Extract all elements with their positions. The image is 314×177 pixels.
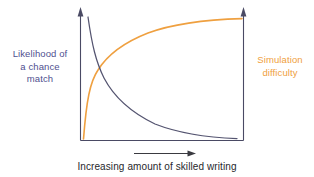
x-direction-arrow-head [188,151,197,157]
left-axis-arrowhead-icon [78,7,84,17]
left-series-label: Likelihood of a chance match [2,48,78,86]
x-direction-arrow-icon [134,151,196,157]
right-series-label-line-2: difficulty [248,67,312,80]
left-series-label-line-1: Likelihood of [2,48,78,61]
left-axis [78,7,84,141]
right-axis-arrowhead-icon [241,7,247,17]
chart-canvas [0,0,314,177]
right-axis [241,7,247,141]
right-series-label: Simulation difficulty [248,54,312,79]
chart-figure: Likelihood of a chance match Simulation … [0,0,314,177]
series-line-simulation-difficulty [84,19,243,139]
right-series-label-line-1: Simulation [248,54,312,67]
left-series-label-line-2: a chance [2,61,78,74]
left-series-label-line-3: match [2,73,78,86]
series-line-chance-match-likelihood [88,17,237,139]
x-axis-caption: Increasing amount of skilled writing [0,160,314,173]
